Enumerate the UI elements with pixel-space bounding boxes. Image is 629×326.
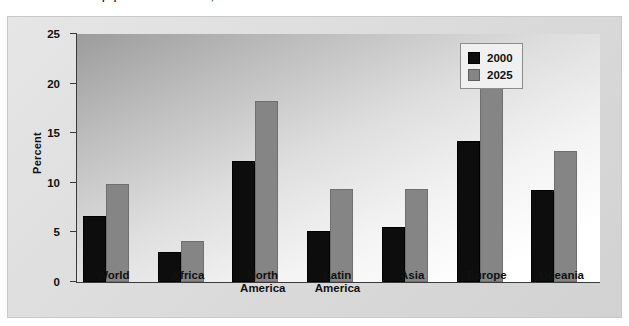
legend-swatch-icon (468, 52, 480, 64)
bar-2025 (255, 101, 278, 282)
chart-legend: 20002025 (460, 43, 523, 89)
chart-panel: Percent 0510152025 WorldAfricaNorthAmeri… (7, 16, 622, 318)
legend-label: 2025 (487, 69, 513, 81)
bar-group (376, 34, 451, 282)
x-axis-label: Europe (444, 269, 530, 282)
y-axis-title: Percent (31, 118, 43, 188)
bar-2000 (457, 141, 480, 282)
bar-group (226, 34, 301, 282)
bar-2025 (554, 151, 577, 282)
y-axis-tick-label: 5 (54, 226, 60, 238)
figure-title: 2population 65 and older, 2000 and 2025 (0, 0, 629, 5)
y-axis-tick-label: 20 (47, 78, 60, 90)
x-axis-label: Asia (369, 269, 455, 282)
x-axis-label: NorthAmerica (220, 269, 306, 295)
bar-2025 (480, 84, 503, 282)
x-axis-label: Africa (145, 269, 231, 282)
bar-group (301, 34, 376, 282)
figure-title-text: population 65 and older, 2000 and 2025 (24, 0, 282, 2)
x-axis-label: Oceania (519, 269, 605, 282)
y-axis-tick-label: 10 (47, 177, 60, 189)
bar-2025 (405, 189, 428, 282)
y-axis-tick: 5 (70, 231, 77, 232)
legend-item: 2000 (468, 49, 513, 66)
legend-item: 2025 (468, 66, 513, 83)
legend-swatch-icon (468, 69, 480, 81)
y-axis-tick: 15 (70, 132, 77, 133)
y-axis-tick: 20 (70, 83, 77, 84)
y-axis-tick-label: 25 (47, 28, 60, 40)
bar-2000 (232, 161, 255, 282)
legend-label: 2000 (487, 52, 513, 64)
x-axis-label: LatinAmerica (295, 269, 381, 295)
bar-2025 (106, 184, 129, 282)
y-axis-tick-label: 0 (54, 276, 60, 288)
bar-group (152, 34, 227, 282)
y-axis-tick-label: 15 (47, 127, 60, 139)
y-axis-tick: 10 (70, 182, 77, 183)
y-axis-tick: 25 (70, 33, 77, 34)
bar-2025 (330, 189, 353, 282)
bar-group (525, 34, 600, 282)
bar-group (77, 34, 152, 282)
figure-number: 2 (0, 0, 24, 2)
x-axis-label: World (70, 269, 156, 282)
